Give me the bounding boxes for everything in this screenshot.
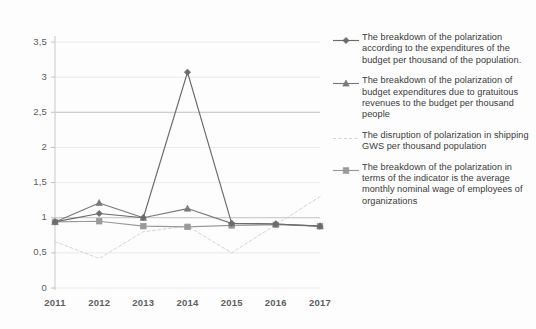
legend-label: The disruption of polarization in shippi… [362, 130, 533, 153]
y-axis-tick-label: 1 [21, 211, 47, 222]
x-axis-tick-label: 2011 [35, 297, 75, 308]
legend-marker-icon [333, 35, 359, 46]
legend-label: The breakdown of the polarization of bud… [362, 75, 533, 121]
y-axis-tick-label: 3 [21, 71, 47, 82]
y-axis-tick-label: 0,5 [21, 246, 47, 257]
data-point-marker [185, 224, 191, 230]
x-axis-tick-label: 2017 [300, 297, 340, 308]
y-axis-tick-label: 2 [21, 141, 47, 152]
data-point-marker [96, 200, 102, 206]
data-point-marker [343, 167, 349, 173]
legend-entry[interactable]: The disruption of polarization in shippi… [333, 130, 533, 153]
legend-entry[interactable]: The breakdown of the polarization of bud… [333, 75, 533, 121]
y-axis-tick-label: 2,5 [21, 106, 47, 117]
series-line [55, 72, 320, 226]
x-axis-tick-label: 2015 [212, 297, 252, 308]
chart-page: 00,511,522,533,5 20112012201320142015201… [0, 0, 536, 329]
data-point-marker [141, 223, 147, 229]
line-chart [0, 0, 330, 329]
data-point-marker [96, 210, 102, 216]
x-axis-tick-label: 2012 [79, 297, 119, 308]
plot-area: 00,511,522,533,5 20112012201320142015201… [0, 0, 330, 329]
legend-label: The breakdown of the polarization in ter… [362, 162, 533, 208]
chart-legend: The breakdown of the polarization accord… [333, 32, 533, 216]
legend-entry[interactable]: The breakdown of the polarization accord… [333, 32, 533, 66]
y-axis-tick-label: 0 [21, 282, 47, 293]
y-axis-tick-label: 3,5 [21, 36, 47, 47]
legend-label: The breakdown of the polarization accord… [362, 32, 533, 66]
x-axis-tick-label: 2016 [256, 297, 296, 308]
legend-marker-icon [333, 165, 359, 176]
data-point-marker [343, 37, 349, 43]
data-point-marker [96, 218, 102, 224]
data-point-marker [184, 69, 190, 75]
y-axis-tick-label: 1,5 [21, 176, 47, 187]
data-point-marker [184, 205, 190, 211]
x-axis-tick-label: 2014 [168, 297, 208, 308]
legend-entry[interactable]: The breakdown of the polarization in ter… [333, 162, 533, 208]
legend-marker-icon [333, 78, 359, 89]
x-axis-tick-label: 2013 [123, 297, 163, 308]
legend-marker-icon [333, 133, 359, 144]
